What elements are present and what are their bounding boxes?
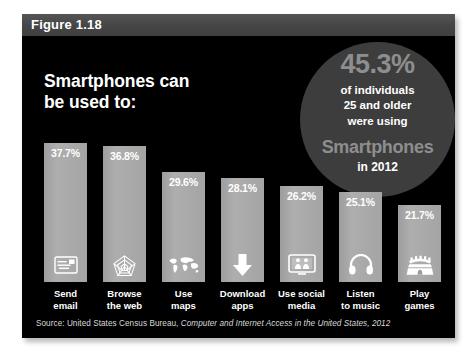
bar-label-line-2: maps	[156, 300, 211, 312]
bar-use-social-media: 26.2% Use social media	[280, 186, 323, 282]
source-title: Computer and Internet Access in the Unit…	[181, 319, 391, 328]
bar-download-apps: 28.1% Download apps	[221, 178, 264, 282]
bar-value-label: 29.6%	[162, 176, 205, 188]
bar-label-line-2: media	[274, 300, 329, 312]
bar-listen-music: 25.1% Listen to music	[339, 192, 382, 282]
bar-value-label: 37.7%	[44, 147, 87, 159]
bar-label-line-2: games	[392, 300, 447, 312]
bar-value-label: 21.7%	[398, 209, 441, 221]
bar-label-play-games: Play games	[392, 288, 447, 312]
bar-label-listen-music: Listen to music	[333, 288, 388, 312]
bar-label-line-1: Send	[38, 288, 93, 300]
bar-value-label: 26.2%	[280, 190, 323, 202]
bar-play-games: 21.7%	[398, 205, 441, 282]
bar-label-line-2: the web	[97, 300, 152, 312]
bar-label-line-1: Play	[392, 288, 447, 300]
bar-label-line-1: Browse	[97, 288, 152, 300]
bar-column-play-games: 21.7%	[398, 205, 441, 282]
bar-label-line-1: Use social	[274, 288, 329, 300]
bar-label-use-maps: Use maps	[156, 288, 211, 312]
bar-label-use-social-media: Use social media	[274, 288, 329, 312]
email-icon	[44, 252, 87, 278]
bar-column-send-email: 37.7% Send email	[44, 143, 87, 282]
bar-label-download-apps: Download apps	[215, 288, 270, 312]
social-people-icon	[280, 252, 323, 278]
bar-label-line-1: Listen	[333, 288, 388, 300]
figure-container: Figure 1.18 Smartphones can be used to: …	[22, 14, 455, 338]
bar-label-browse-web: Browse the web	[97, 288, 152, 312]
bar-chart: 37.7% Send email 36	[22, 14, 455, 338]
bar-column-browse-web: 36.8%	[103, 146, 146, 282]
world-map-icon	[162, 252, 205, 278]
bar-use-maps: 29.6% Use maps	[162, 172, 205, 282]
bar-label-line-2: to music	[333, 300, 388, 312]
bar-label-line-1: Download	[215, 288, 270, 300]
spider-web-icon	[103, 252, 146, 278]
bar-column-listen-music: 25.1% Listen to music	[339, 192, 382, 282]
bar-label-line-2: email	[38, 300, 93, 312]
headphones-icon	[339, 252, 382, 278]
source-citation: Source: United States Census Bureau, Com…	[36, 319, 390, 328]
source-prefix: Source: United States Census Bureau,	[36, 319, 181, 328]
bar-label-line-2: apps	[215, 300, 270, 312]
bar-value-label: 36.8%	[103, 150, 146, 162]
arcade-game-icon	[398, 252, 441, 278]
bar-label-send-email: Send email	[38, 288, 93, 312]
bar-value-label: 28.1%	[221, 182, 264, 194]
bar-label-line-1: Use	[156, 288, 211, 300]
bar-column-use-maps: 29.6% Use maps	[162, 172, 205, 282]
bar-send-email: 37.7% Send email	[44, 143, 87, 282]
download-arrow-icon	[221, 252, 264, 278]
bar-column-download-apps: 28.1% Download apps	[221, 178, 264, 282]
bar-browse-web: 36.8%	[103, 146, 146, 282]
bar-column-use-social-media: 26.2% Use social media	[280, 186, 323, 282]
bar-value-label: 25.1%	[339, 196, 382, 208]
